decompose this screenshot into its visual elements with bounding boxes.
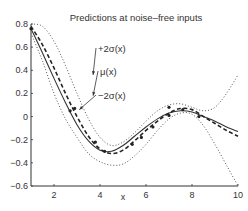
x-tick-label: 4	[97, 190, 102, 200]
x-tick-label: 6	[143, 190, 148, 200]
chart: Predictions at noise–free inputs 2468100…	[0, 0, 248, 211]
data-point	[140, 136, 143, 139]
annotations: +2σ(x)μ(x)−2σ(x)	[79, 43, 125, 110]
axes: 2468100.80.60.40.20−0.2−0.4−0.6	[10, 19, 243, 200]
annotation-label: −2σ(x)	[98, 90, 126, 101]
data-point	[167, 114, 170, 117]
y-tick-label: 0.4	[15, 65, 28, 75]
data-point	[103, 150, 106, 153]
data-point	[197, 115, 200, 118]
y-tick-label: 0.8	[15, 19, 28, 29]
y-tick-label: 0.2	[15, 88, 28, 98]
y-tick-label: 0	[23, 112, 28, 122]
data-point	[29, 27, 32, 30]
x-tick-label: 2	[51, 190, 56, 200]
chart-title: Predictions at noise–free inputs	[70, 12, 203, 23]
series-line	[31, 29, 238, 152]
x-axis-label: x	[121, 192, 126, 202]
y-tick-label: 0.6	[15, 42, 28, 52]
x-tick-label: 8	[189, 190, 194, 200]
series-line	[31, 26, 238, 153]
data-point	[181, 108, 184, 111]
data-point	[131, 143, 134, 146]
data-point	[69, 109, 72, 112]
y-tick-label: −0.6	[10, 181, 28, 191]
y-tick-label: −0.4	[10, 158, 28, 168]
data-point	[151, 125, 154, 128]
annotation-label: +2σ(x)	[98, 43, 126, 54]
x-tick-label: 10	[233, 190, 243, 200]
series-line	[31, 33, 238, 186]
data-point	[167, 106, 170, 109]
annotation-arrow	[93, 48, 96, 75]
series-group	[31, 24, 238, 186]
data-point	[94, 140, 97, 143]
y-tick-label: −0.2	[10, 135, 28, 145]
annotation-label: μ(x)	[100, 66, 117, 77]
data-point	[73, 107, 76, 110]
